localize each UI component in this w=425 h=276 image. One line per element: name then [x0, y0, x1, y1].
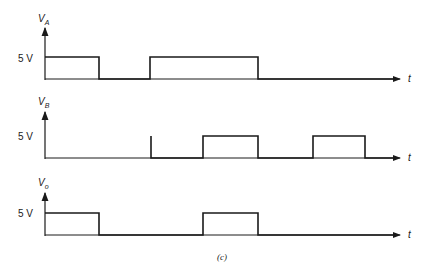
vo-axis-label: Vo [38, 177, 49, 190]
vb-t-label: t [408, 152, 412, 163]
vo-t-label: t [408, 229, 412, 240]
panel-vo: Vo 5 V t [18, 177, 412, 240]
panel-vb: VB 5 V t [18, 96, 412, 163]
timing-diagram: VA 5 V t VB 5 V t Vo 5 V t (c) [0, 0, 425, 276]
va-level-label: 5 V [18, 53, 33, 64]
vo-level-label: 5 V [18, 208, 33, 219]
panel-va: VA 5 V t [18, 13, 412, 84]
vo-waveform [45, 213, 395, 235]
va-t-label: t [408, 73, 412, 84]
va-waveform [45, 57, 395, 79]
figure-caption: (c) [217, 252, 227, 262]
vb-level-label: 5 V [18, 131, 33, 142]
vb-axis-label: VB [38, 96, 50, 109]
va-axis-label: VA [38, 13, 50, 26]
vb-waveform [151, 136, 395, 158]
